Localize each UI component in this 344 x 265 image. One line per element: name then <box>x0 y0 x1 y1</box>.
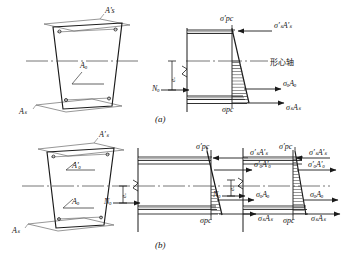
panel-a-stress-diagram <box>161 25 284 112</box>
panel-a-label-bottom-concrete-stress: σpc <box>222 106 234 114</box>
panel-b-middle-label-top-tendon-force: σ'ₒA'ₒ <box>254 161 271 169</box>
panel-a-label-bottom-steel-force: σₛAₛ <box>286 104 301 112</box>
panel-a-label-prestress-resultant: Nₒ <box>152 85 160 93</box>
panel-b-right-label-tendon-force: σₒAₒ <box>310 191 323 199</box>
centroid-axis-annotation: 形心轴 <box>270 56 294 67</box>
panel-b-middle-label-eccentricity: eₒ <box>121 193 128 198</box>
panel-a-label-tendon: Aₒ <box>80 62 87 70</box>
panel-b-middle-label-bottom-concrete: σpc <box>200 217 212 225</box>
caption-b: (b) <box>155 240 166 250</box>
panel-b-cross-section <box>22 138 130 231</box>
figure-canvas: A's Aₒ Aₛ σ'pc σ'ₛA'ₛ σₒAₒ σₛAₛ σpc Nₒ e… <box>0 0 344 265</box>
panel-b-right-label-prestress-resultant: Nₒ <box>213 191 221 199</box>
diagram-vector-layer <box>0 0 344 265</box>
panel-b-label-top-tendon: A'ₒ <box>72 162 81 170</box>
panel-b-middle-label-tendon-force: σₒAₒ <box>256 191 269 199</box>
caption-a: (a) <box>155 114 166 124</box>
panel-b-right-label-bottom-concrete: σpc <box>283 217 295 225</box>
panel-b-middle-label-top-concrete: σ'pc <box>196 143 209 151</box>
panel-a-label-top-steel: A's <box>105 7 115 15</box>
panel-b-middle-label-bottom-steel-force: σₛAₛ <box>258 215 273 223</box>
panel-b-right-label-bottom-steel-force: σₛAₛ <box>311 215 326 223</box>
panel-a-label-top-steel-force: σ'ₛA'ₛ <box>274 22 292 30</box>
panel-b-middle-label-prestress-resultant: Nₒ <box>104 198 112 206</box>
panel-a-label-eccentricity: eₒ <box>170 77 177 82</box>
panel-a-label-tendon-force: σₒAₒ <box>283 80 296 88</box>
panel-b-right-label-top-steel-force: σ'ₛA'ₛ <box>309 149 327 157</box>
panel-b-middle-label-top-steel-force: σ'ₛA'ₛ <box>250 149 268 157</box>
panel-a-label-top-concrete-stress: σ'pc <box>220 15 233 23</box>
panel-b-right-label-top-tendon-force: σ'ₒA'ₒ <box>308 161 325 169</box>
panel-b-label-bottom-tendon: Aₒ <box>72 198 79 206</box>
panel-b-right-label-top-concrete: σ'pc <box>279 143 292 151</box>
panel-b-label-bottom-steel: Aₛ <box>12 227 20 235</box>
panel-a-label-bottom-steel: Aₛ <box>19 108 27 116</box>
panel-b-right-label-eccentricity: eₒ <box>229 186 236 191</box>
panel-b-label-top-steel: A'ₛ <box>99 131 109 139</box>
